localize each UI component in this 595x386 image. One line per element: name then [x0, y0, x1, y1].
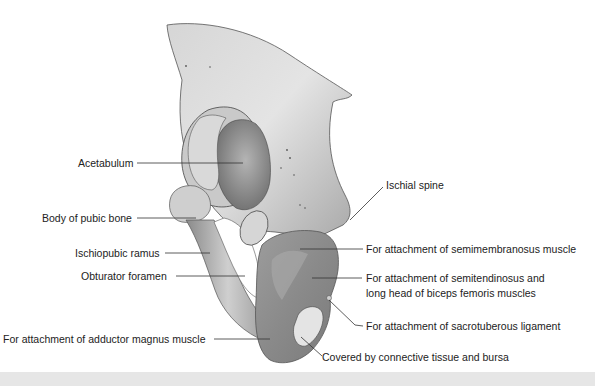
label-ischial-spine: Ischial spine — [386, 179, 444, 192]
label-obturator-foramen: Obturator foramen — [81, 270, 167, 283]
label-body-of-pubic-bone: Body of pubic bone — [42, 212, 132, 225]
label-connective-tissue: Covered by connective tissue and bursa — [322, 351, 509, 364]
anatomy-figure: Acetabulum Body of pubic bone Ischiopubi… — [0, 0, 595, 386]
label-acetabulum: Acetabulum — [78, 157, 133, 170]
label-semimembranosus: For attachment of semimembranosus muscle — [366, 243, 576, 256]
pubic-body — [170, 186, 211, 223]
label-adductor-magnus: For attachment of adductor magnus muscle — [3, 333, 206, 346]
label-semitendinosus-line2: long head of biceps femoris muscles — [366, 287, 536, 300]
label-ischiopubic-ramus: Ischiopubic ramus — [75, 247, 160, 260]
sacrotuberous-knob — [327, 296, 332, 301]
label-semitendinosus-line1: For attachment of semitendinosus and — [366, 272, 545, 285]
bottom-band — [0, 372, 595, 386]
label-sacrotuberous: For attachment of sacrotuberous ligament — [366, 320, 560, 333]
